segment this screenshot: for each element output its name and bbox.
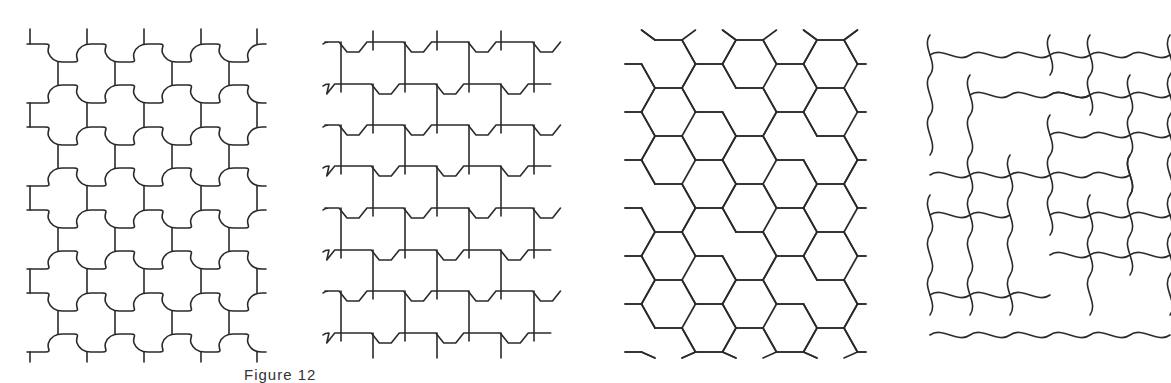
i-brick-pattern-drawing bbox=[300, 0, 600, 370]
cross-tile-pattern-drawing bbox=[0, 0, 300, 370]
pattern-panel-hex-chevrons bbox=[600, 0, 900, 370]
figure-caption: Figure 12 bbox=[244, 366, 316, 383]
pattern-panel-i-bricks bbox=[300, 0, 600, 370]
pattern-panel-cross-tiles bbox=[0, 0, 300, 370]
pattern-panel-wavy-tiles bbox=[900, 0, 1171, 370]
wavy-tile-pattern-drawing bbox=[900, 0, 1171, 370]
hex-chevron-pattern-drawing bbox=[600, 0, 900, 370]
